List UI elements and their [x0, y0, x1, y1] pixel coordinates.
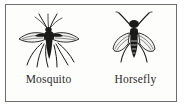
horsefly-art-area	[91, 9, 176, 73]
horsefly-illustration	[105, 9, 163, 71]
insect-comparison-figure: Mosquito	[5, 4, 177, 102]
mosquito-art-area	[6, 9, 91, 73]
specimen-cell-horsefly: Horsefly	[91, 5, 176, 101]
specimen-label-mosquito: Mosquito	[6, 73, 93, 86]
specimen-cell-mosquito: Mosquito	[6, 5, 91, 101]
mosquito-illustration	[14, 9, 84, 71]
specimen-label-horsefly: Horsefly	[91, 73, 178, 86]
